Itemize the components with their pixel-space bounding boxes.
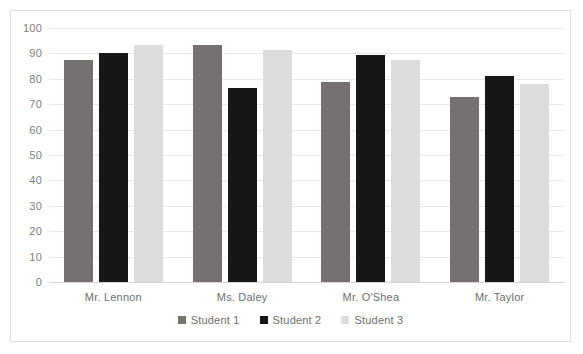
y-axis-tick-label: 10: [29, 251, 42, 263]
bar[interactable]: [99, 53, 128, 282]
y-axis-tick-label: 40: [29, 174, 42, 186]
bar[interactable]: [64, 60, 93, 282]
legend-label: Student 1: [191, 314, 240, 326]
bar-group: Mr. O'Shea: [307, 28, 436, 282]
bar-groups: Mr. LennonMs. DaleyMr. O'SheaMr. Taylor: [49, 28, 564, 282]
legend-swatch-icon: [178, 316, 186, 324]
y-axis-tick-label: 90: [29, 47, 42, 59]
category-label: Mr. Taylor: [435, 291, 564, 303]
legend-item[interactable]: Student 2: [260, 314, 322, 326]
legend-item[interactable]: Student 1: [178, 314, 240, 326]
legend-label: Student 3: [354, 314, 403, 326]
bar-set: [307, 28, 436, 282]
legend-label: Student 2: [273, 314, 322, 326]
bar[interactable]: [450, 97, 479, 282]
plot-area: 0102030405060708090100 Mr. LennonMs. Dal…: [49, 28, 564, 282]
category-label: Ms. Daley: [178, 291, 307, 303]
category-label: Mr. Lennon: [49, 291, 178, 303]
gridline-0: [49, 282, 564, 283]
bar[interactable]: [193, 45, 222, 282]
y-axis-tick-label: 0: [36, 276, 42, 288]
bar[interactable]: [485, 76, 514, 283]
legend-swatch-icon: [260, 316, 268, 324]
bar-group: Ms. Daley: [178, 28, 307, 282]
bar[interactable]: [391, 60, 420, 282]
bar[interactable]: [356, 55, 385, 282]
bar[interactable]: [321, 82, 350, 282]
y-axis-tick-label: 20: [29, 225, 42, 237]
chart-legend: Student 1Student 2Student 3: [11, 314, 570, 326]
bar-set: [435, 28, 564, 282]
bar[interactable]: [228, 88, 257, 282]
y-axis-tick-label: 30: [29, 200, 42, 212]
bar-set: [49, 28, 178, 282]
bar-set: [178, 28, 307, 282]
legend-swatch-icon: [341, 316, 349, 324]
chart-frame: 0102030405060708090100 Mr. LennonMs. Dal…: [10, 10, 571, 342]
y-axis-tick-label: 80: [29, 73, 42, 85]
bar[interactable]: [520, 84, 549, 282]
bar-group: Mr. Lennon: [49, 28, 178, 282]
y-axis-tick-label: 50: [29, 149, 42, 161]
y-axis-tick-label: 60: [29, 124, 42, 136]
bar-group: Mr. Taylor: [435, 28, 564, 282]
category-label: Mr. O'Shea: [307, 291, 436, 303]
y-axis-tick-label: 70: [29, 98, 42, 110]
bar[interactable]: [134, 45, 163, 282]
y-axis-tick-label: 100: [23, 22, 42, 34]
bar[interactable]: [263, 50, 292, 282]
legend-item[interactable]: Student 3: [341, 314, 403, 326]
